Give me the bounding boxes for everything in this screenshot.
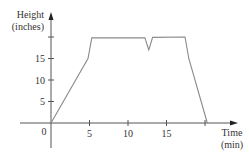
origin-label: 0 — [42, 126, 47, 137]
y-axis-label: Height — [17, 9, 44, 20]
series-line — [51, 37, 207, 123]
height-vs-time-chart: 51015510150 Height(inches)Time(min) — [0, 0, 249, 160]
ticks: 51015510150 — [35, 37, 205, 139]
x-tick-label: 5 — [87, 128, 92, 139]
x-tick-label: 10 — [123, 128, 133, 139]
data-series — [51, 37, 207, 123]
y-axis-label: (inches) — [12, 21, 44, 33]
y-axis-arrow-icon — [49, 12, 54, 20]
y-tick-label: 5 — [40, 96, 45, 107]
x-axis-label: (min) — [221, 139, 243, 151]
x-axis-arrow-icon — [230, 121, 238, 126]
x-axis-label: Time — [222, 127, 243, 138]
x-tick-label: 15 — [162, 128, 172, 139]
y-tick-label: 15 — [35, 53, 45, 64]
y-tick-label: 10 — [35, 75, 45, 86]
